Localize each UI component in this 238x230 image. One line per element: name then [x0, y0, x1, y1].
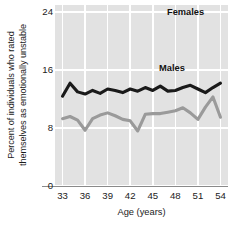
y-tick-label-16: 16 — [36, 64, 53, 75]
y-axis-title-line-1: Percent of individuals who rated — [6, 24, 18, 166]
y-tick-label-0: 0 — [36, 180, 53, 191]
x-tick-label-42: 42 — [119, 190, 141, 201]
x-tick-label-48: 48 — [164, 190, 186, 201]
series-label-males: Males — [159, 63, 185, 73]
x-tick-label-54: 54 — [209, 190, 231, 201]
x-tick-label-51: 51 — [187, 190, 209, 201]
x-tick-label-36: 36 — [74, 190, 96, 201]
x-axis-title: Age (years) — [55, 207, 228, 217]
y-axis-title-line-2: themselves as emotionally unstable — [18, 24, 30, 166]
x-tick-label-45: 45 — [142, 190, 164, 201]
x-tick-label-39: 39 — [97, 190, 119, 201]
x-tick-label-33: 33 — [52, 190, 74, 201]
series-lines — [55, 5, 228, 186]
line-males — [63, 97, 221, 131]
y-axis-title: Percent of individuals who rated themsel… — [0, 0, 36, 190]
y-tick-label-8: 8 — [36, 122, 53, 133]
y-axis-title-text: Percent of individuals who rated themsel… — [6, 24, 29, 166]
plot-area: Females Males — [55, 5, 228, 186]
line-females — [63, 83, 221, 96]
x-axis-line — [42, 186, 228, 187]
chart-figure: Percent of individuals who rated themsel… — [0, 0, 238, 230]
series-label-females: Females — [167, 7, 204, 17]
y-tick-label-24: 24 — [36, 6, 53, 17]
